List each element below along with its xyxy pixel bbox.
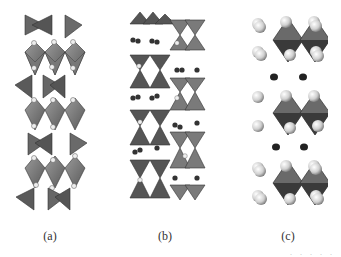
panel-b bbox=[125, 0, 210, 215]
panel-label-b: (b) bbox=[145, 229, 185, 244]
panel-c bbox=[248, 0, 328, 215]
crystal-structure-c bbox=[248, 0, 328, 215]
panel-label-c: (c) bbox=[268, 229, 308, 244]
footer-fragment: . . . . . bbox=[290, 248, 335, 257]
panel-label-a: (a) bbox=[30, 229, 70, 244]
crystal-structure-b bbox=[125, 0, 210, 215]
panel-a bbox=[10, 0, 90, 215]
crystal-structure-a bbox=[10, 0, 90, 215]
